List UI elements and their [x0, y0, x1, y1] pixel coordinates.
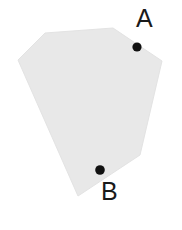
figure-canvas: A B: [0, 0, 182, 230]
point-marker-a: [132, 42, 141, 51]
shape-diagram-svg: [0, 0, 182, 230]
point-marker-b: [95, 165, 105, 175]
point-label-b: B: [101, 179, 118, 204]
irregular-hexagon-shape: [18, 28, 162, 196]
point-label-a: A: [136, 6, 153, 31]
